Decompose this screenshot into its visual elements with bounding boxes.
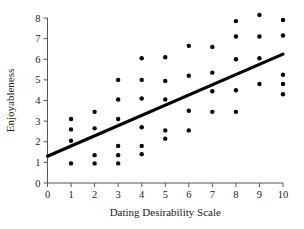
data-point [187, 109, 191, 113]
data-point [92, 126, 96, 130]
data-point [234, 34, 238, 38]
data-point [210, 110, 214, 114]
data-point [116, 97, 120, 101]
data-point [116, 161, 120, 165]
x-tick-label: 10 [278, 189, 289, 200]
data-point [116, 117, 120, 121]
data-point [257, 13, 261, 17]
x-tick-label: 2 [92, 189, 97, 200]
data-point [210, 45, 214, 49]
x-axis-title: Dating Desirability Scale [110, 206, 221, 218]
data-point [92, 153, 96, 157]
data-point [140, 78, 144, 82]
data-point [281, 18, 285, 22]
data-point [234, 110, 238, 114]
y-axis-tick-labels: 012345678 [35, 13, 41, 189]
data-point [140, 56, 144, 60]
data-point [234, 88, 238, 92]
data-point [163, 79, 167, 83]
x-axis-ticks [48, 183, 284, 187]
data-point [69, 139, 73, 143]
data-point [140, 152, 144, 156]
x-tick-label: 9 [257, 189, 262, 200]
x-tick-label: 4 [139, 189, 145, 200]
data-point [163, 97, 167, 101]
data-point [116, 153, 120, 157]
y-tick-label: 1 [35, 157, 40, 168]
scatter-plot-figure: 012345678 012345678910 Dating Desirabili… [0, 0, 304, 229]
data-point [210, 70, 214, 74]
data-points-group [69, 13, 285, 166]
y-tick-label: 6 [35, 54, 40, 65]
y-tick-label: 4 [35, 95, 41, 106]
x-tick-label: 0 [45, 189, 50, 200]
data-point [281, 82, 285, 86]
data-point [187, 128, 191, 132]
y-tick-label: 2 [35, 136, 40, 147]
data-point [69, 161, 73, 165]
data-point [257, 34, 261, 38]
x-tick-label: 5 [163, 189, 168, 200]
y-axis-title: Enjoyableness [4, 69, 16, 133]
y-tick-label: 0 [35, 178, 40, 189]
y-tick-label: 8 [35, 13, 40, 24]
data-point [116, 78, 120, 82]
data-point [281, 73, 285, 77]
regression-trend-line [48, 54, 284, 156]
y-axis-ticks [44, 18, 48, 183]
chart-canvas: 012345678 012345678910 Dating Desirabili… [0, 0, 304, 229]
data-point [140, 144, 144, 148]
y-tick-label: 3 [35, 116, 40, 127]
data-point [234, 19, 238, 23]
x-tick-label: 3 [116, 189, 121, 200]
data-point [140, 125, 144, 129]
data-point [210, 89, 214, 93]
x-tick-label: 1 [68, 189, 73, 200]
y-tick-label: 7 [35, 33, 40, 44]
x-axis-tick-labels: 012345678910 [45, 189, 288, 200]
x-tick-label: 7 [210, 189, 215, 200]
x-tick-label: 6 [186, 189, 191, 200]
data-point [116, 144, 120, 148]
data-point [187, 44, 191, 48]
data-point [140, 96, 144, 100]
data-point [257, 82, 261, 86]
data-point [257, 56, 261, 60]
data-point [163, 55, 167, 59]
data-point [281, 92, 285, 96]
data-point [92, 110, 96, 114]
data-point [163, 136, 167, 140]
data-point [163, 128, 167, 132]
data-point [69, 117, 73, 121]
data-point [234, 57, 238, 61]
x-tick-label: 8 [233, 189, 238, 200]
y-tick-label: 5 [35, 74, 40, 85]
data-point [187, 74, 191, 78]
data-point [281, 33, 285, 37]
data-point [69, 127, 73, 131]
data-point [92, 161, 96, 165]
